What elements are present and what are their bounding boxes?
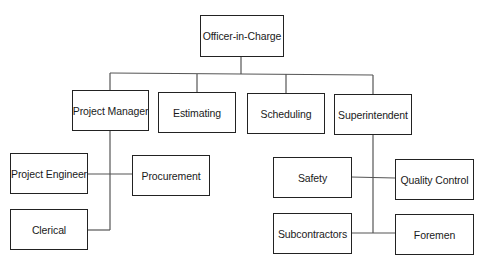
node-superintendent: Superintendent	[334, 94, 412, 135]
node-label: Foremen	[414, 229, 455, 241]
node-label: Estimating	[173, 107, 221, 119]
node-label: Clerical	[32, 224, 66, 236]
node-label: Quality Control	[401, 174, 469, 186]
node-label: Safety	[298, 172, 327, 184]
node-quality-control: Quality Control	[395, 159, 474, 200]
node-label: Project Engineer	[11, 168, 87, 180]
node-officer-in-charge: Officer-in-Charge	[200, 15, 284, 57]
node-label: Superintendent	[338, 109, 408, 121]
node-label: Project Manager	[73, 105, 149, 117]
node-subcontractors: Subcontractors	[273, 213, 352, 254]
node-label: Officer-in-Charge	[203, 30, 282, 42]
node-scheduling: Scheduling	[247, 93, 325, 134]
node-procurement: Procurement	[132, 155, 210, 196]
node-project-engineer: Project Engineer	[10, 153, 88, 194]
node-estimating: Estimating	[158, 92, 236, 133]
node-foremen: Foremen	[395, 214, 474, 255]
node-label: Subcontractors	[278, 228, 347, 240]
node-project-manager: Project Manager	[72, 90, 149, 131]
node-label: Procurement	[141, 170, 200, 182]
node-safety: Safety	[273, 157, 352, 198]
node-label: Scheduling	[261, 108, 312, 120]
node-clerical: Clerical	[10, 209, 88, 250]
